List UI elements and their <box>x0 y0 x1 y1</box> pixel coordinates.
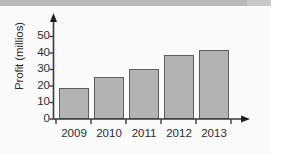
bar-chart: Profit (millios) 0 10 20 30 40 50 <box>0 0 283 154</box>
x-tick-label-2012: 2012 <box>159 128 199 139</box>
x-tick-label-2013: 2013 <box>194 128 234 139</box>
y-axis-arrow-icon <box>50 13 57 22</box>
x-axis-arrow-icon <box>241 116 250 123</box>
x-tick-label-2009: 2009 <box>54 128 94 139</box>
chart-figure: Profit (millios) 0 10 20 30 40 50 <box>0 0 283 154</box>
x-tick-label-2010: 2010 <box>89 128 129 139</box>
x-tick-label-2011: 2011 <box>124 128 164 139</box>
